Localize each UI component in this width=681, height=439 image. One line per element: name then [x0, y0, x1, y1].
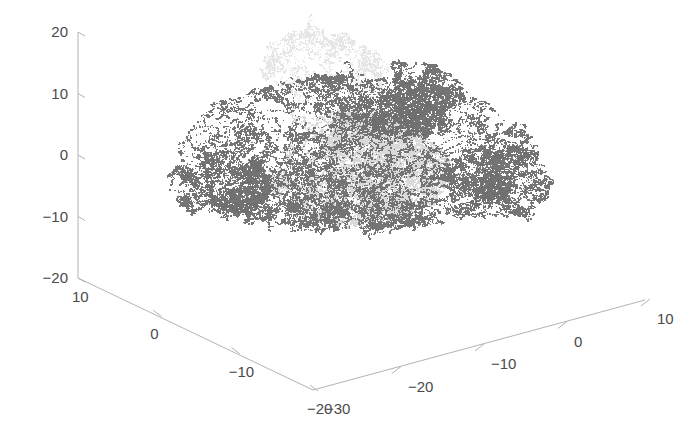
y-tick-label-0: 0	[574, 333, 582, 350]
tick-label-group: 20100−10−20100−10−20−30−20−10010	[43, 23, 674, 417]
y-tick-label-neg30: −30	[325, 400, 350, 417]
tick-mark	[78, 278, 85, 282]
z-tick-label-neg20: −20	[43, 269, 68, 286]
x-tick-label-0: 0	[150, 325, 158, 342]
y-axis-line	[313, 300, 645, 390]
tick-mark	[78, 94, 85, 98]
tick-mark	[78, 32, 85, 36]
figure-canvas: 20100−10−20100−10−20−30−20−10010	[0, 0, 681, 439]
y-tick-label-neg20: −20	[408, 378, 433, 395]
tick-mark	[641, 299, 650, 306]
x-axis-line	[78, 278, 313, 390]
axes-layer: 20100−10−20100−10−20−30−20−10010	[0, 0, 681, 439]
z-tick-label-10: 10	[51, 85, 68, 102]
z-tick-label-0: 0	[60, 146, 68, 163]
x-tick-label-10: 10	[72, 288, 89, 305]
x-tick-label-neg10: −10	[229, 363, 254, 380]
y-tick-label-neg10: −10	[491, 355, 516, 372]
z-tick-label-neg10: −10	[43, 208, 68, 225]
y-tick-label-10: 10	[657, 310, 674, 327]
z-tick-label-20: 20	[51, 23, 68, 40]
tick-mark	[78, 217, 85, 221]
tick-mark	[78, 155, 85, 159]
tick-marks	[78, 32, 650, 391]
